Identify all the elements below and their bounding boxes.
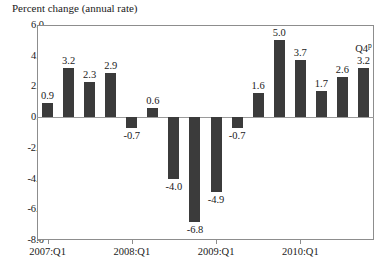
bar-value-label: 1.6 [241,80,275,91]
bar-value-label: -4.9 [199,194,233,205]
chart-title: Percent change (annual rate) [12,2,138,15]
bar-value-label: 1.7 [304,78,338,89]
bar [316,91,327,117]
bar-value-label: -0.7 [115,130,149,141]
bar [232,117,243,128]
x-axis-tick-label: 2008:Q1 [97,246,167,258]
bar-value-label: -0.7 [220,130,254,141]
x-axis-tick-mark [216,240,217,244]
bar [126,117,137,128]
bar [358,68,369,117]
x-axis-tick-mark [300,240,301,244]
x-axis-tick-mark [132,240,133,244]
plot-area [37,25,374,240]
bar [337,77,348,117]
x-axis-tick-label: 2009:Q1 [181,246,251,258]
bar-value-label: 0.6 [136,95,170,106]
bar [168,117,179,178]
annotation-q4-preliminary: Q4p [343,43,383,54]
bar [147,108,158,117]
bar-value-label: 3.2 [52,55,86,66]
bar [211,117,222,192]
x-axis-tick-label: 2007:Q1 [13,246,83,258]
bar [253,93,264,118]
bar [42,103,53,117]
bar [105,73,116,118]
bar-value-label: 2.9 [94,60,128,71]
bar-value-label: 3.2 [346,55,380,66]
annotation-superscript: p [368,41,372,50]
y-axis-tick-mark [37,240,41,241]
annotation-text: Q4 [355,43,368,54]
bar-value-label: -6.8 [178,224,212,235]
x-axis-tick-label: 2010:Q1 [265,246,335,258]
bar [189,117,200,221]
bar-value-label: 5.0 [262,27,296,38]
bar [84,82,95,117]
bar-value-label: -4.0 [157,181,191,192]
x-axis-tick-mark [48,240,49,244]
bar-value-label: 3.7 [283,47,317,58]
bar-chart-figure: Percent change (annual rate) 6.04.02.00.… [0,0,388,276]
bar-value-label: 0.9 [31,90,65,101]
zero-baseline [37,117,374,118]
